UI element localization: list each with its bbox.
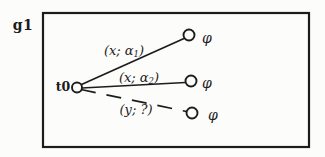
edge-label-x-alpha1-close: ) bbox=[139, 43, 144, 58]
node-phi1-label: φ bbox=[202, 31, 212, 45]
edge-label-x-alpha2-open: (x; α bbox=[119, 70, 149, 85]
node-phi1-circle bbox=[184, 30, 195, 41]
edge-label-y-unknown-open: (y; ? bbox=[120, 102, 148, 117]
edge-label-y-unknown: (y; ?) bbox=[120, 103, 153, 116]
graph-drawing bbox=[0, 0, 325, 157]
edge-label-x-alpha1: (x; α1) bbox=[104, 44, 144, 57]
node-phi3-circle bbox=[187, 108, 198, 119]
edge-label-x-alpha2: (x; α2) bbox=[119, 71, 159, 84]
graph-title: g1 bbox=[13, 18, 34, 32]
node-t0-label: t0 bbox=[56, 80, 70, 93]
node-phi2-circle bbox=[186, 76, 197, 87]
node-t0-circle bbox=[72, 83, 82, 93]
figure-frame bbox=[43, 13, 309, 147]
edge-label-y-unknown-close: ) bbox=[147, 102, 152, 117]
edge-label-x-alpha1-open: (x; α bbox=[104, 43, 134, 58]
figure-canvas: g1 t0 (x; α1) (x; α2) (y; ?) φ φ φ bbox=[0, 0, 325, 157]
node-phi2-label: φ bbox=[202, 76, 212, 90]
node-phi3-label: φ bbox=[208, 108, 218, 122]
edge-label-x-alpha2-close: ) bbox=[154, 70, 159, 85]
